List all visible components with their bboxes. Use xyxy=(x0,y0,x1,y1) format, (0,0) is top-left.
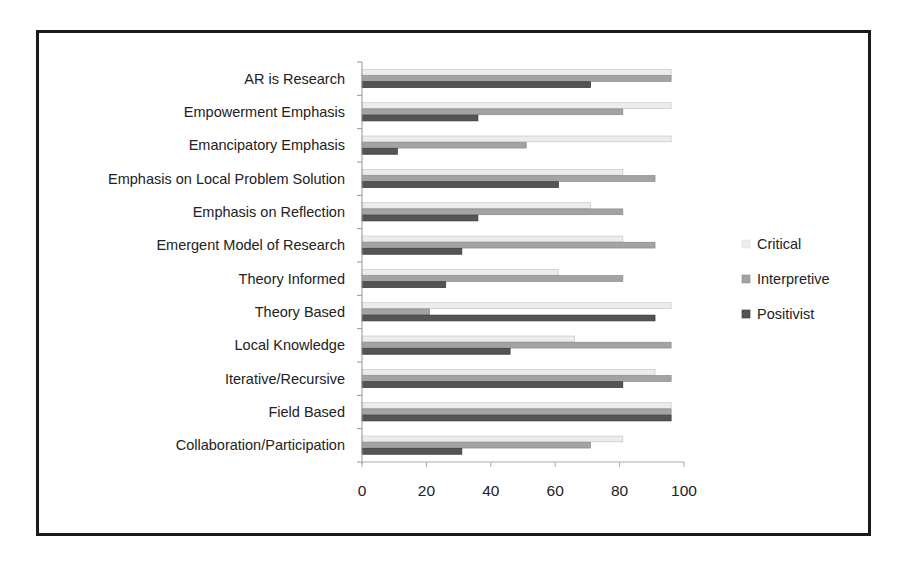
x-tick-label: 20 xyxy=(418,482,436,499)
category-label: Theory Based xyxy=(255,304,345,320)
bar-positivist xyxy=(362,415,671,421)
legend: CriticalInterpretivePositivist xyxy=(742,236,830,322)
legend-swatch-critical xyxy=(742,240,750,248)
bar-critical xyxy=(362,103,671,109)
bar-positivist xyxy=(362,215,478,221)
category-label: Collaboration/Participation xyxy=(176,437,345,453)
legend-swatch-positivist xyxy=(742,310,750,318)
bar-interpretive xyxy=(362,276,623,282)
bar-positivist xyxy=(362,282,446,288)
bar-interpretive xyxy=(362,376,671,382)
bar-chart: AR is ResearchEmpowerment EmphasisEmanci… xyxy=(0,0,903,569)
bar-interpretive xyxy=(362,209,623,215)
legend-swatch-interpretive xyxy=(742,275,750,283)
bar-positivist xyxy=(362,315,655,321)
bar-interpretive xyxy=(362,409,671,415)
bar-critical xyxy=(362,69,671,75)
bar-interpretive xyxy=(362,176,655,182)
category-label: Theory Informed xyxy=(239,271,345,287)
x-tick-label: 60 xyxy=(547,482,565,499)
bar-positivist xyxy=(362,182,558,188)
category-label: Emphasis on Local Problem Solution xyxy=(108,171,345,187)
bar-interpretive xyxy=(362,442,591,448)
x-tick-label: 0 xyxy=(358,482,367,499)
legend-label-interpretive: Interpretive xyxy=(757,271,830,287)
legend-label-positivist: Positivist xyxy=(757,306,814,322)
bar-interpretive xyxy=(362,76,671,82)
x-tick-label: 100 xyxy=(671,482,697,499)
category-label: AR is Research xyxy=(244,71,345,87)
bar-critical xyxy=(362,336,575,342)
bar-critical xyxy=(362,203,591,209)
category-label: Empowerment Emphasis xyxy=(184,104,345,120)
bar-interpretive xyxy=(362,109,623,115)
bar-interpretive xyxy=(362,342,671,348)
category-label: Emergent Model of Research xyxy=(156,237,345,253)
category-label: Iterative/Recursive xyxy=(225,371,345,387)
bar-critical xyxy=(362,236,623,242)
bar-interpretive xyxy=(362,142,526,148)
bar-critical xyxy=(362,169,623,175)
plot-area xyxy=(362,69,671,454)
category-label: Emphasis on Reflection xyxy=(193,204,345,220)
x-tick-label: 40 xyxy=(482,482,500,499)
bar-positivist xyxy=(362,448,462,454)
bar-positivist xyxy=(362,348,510,354)
legend-label-critical: Critical xyxy=(757,236,801,252)
bar-critical xyxy=(362,269,558,275)
category-label: Emancipatory Emphasis xyxy=(189,137,345,153)
x-tick-label: 80 xyxy=(611,482,629,499)
bar-positivist xyxy=(362,82,591,88)
bar-interpretive xyxy=(362,309,430,315)
bar-critical xyxy=(362,403,671,409)
bar-positivist xyxy=(362,148,397,154)
bar-interpretive xyxy=(362,242,655,248)
category-label: Field Based xyxy=(268,404,345,420)
bar-critical xyxy=(362,369,655,375)
bar-positivist xyxy=(362,248,462,254)
bar-critical xyxy=(362,303,671,309)
category-labels: AR is ResearchEmpowerment EmphasisEmanci… xyxy=(108,71,345,454)
bar-positivist xyxy=(362,115,478,121)
bar-critical xyxy=(362,136,671,142)
bar-positivist xyxy=(362,382,623,388)
bar-critical xyxy=(362,436,623,442)
category-label: Local Knowledge xyxy=(235,337,345,353)
